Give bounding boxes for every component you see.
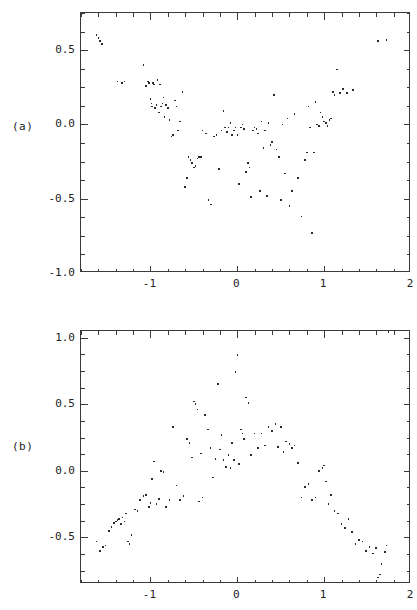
axis-tick [81, 504, 85, 505]
axis-tick [220, 580, 221, 582]
data-point [358, 539, 360, 541]
data-point [351, 531, 353, 533]
axis-tick [404, 404, 409, 405]
axis-tick [407, 571, 409, 572]
axis-tick [116, 580, 117, 582]
scatter-area-b [81, 331, 409, 582]
data-point [230, 467, 232, 469]
data-point [99, 550, 101, 552]
axis-tick [407, 438, 409, 439]
axis-tick [98, 580, 99, 582]
x-tick-label-b: 2 [407, 588, 414, 601]
axis-tick [376, 580, 377, 582]
data-point [176, 485, 178, 487]
data-point [163, 471, 165, 473]
data-point [344, 527, 346, 529]
data-point [134, 509, 136, 511]
data-point [204, 414, 206, 416]
data-point [264, 445, 266, 447]
data-point [330, 494, 332, 496]
data-point [261, 433, 263, 435]
axis-tick [133, 580, 134, 582]
data-point [195, 403, 197, 405]
axis-tick [324, 577, 325, 582]
data-point [215, 458, 217, 460]
x-tick-label-b: 1 [320, 588, 327, 601]
axis-tick [220, 331, 221, 335]
data-point [388, 331, 390, 333]
axis-tick [81, 404, 88, 405]
data-point [108, 530, 110, 532]
axis-tick [342, 331, 343, 335]
data-point [158, 498, 160, 500]
data-point [318, 470, 320, 472]
axis-tick [237, 331, 238, 338]
data-point [334, 510, 336, 512]
data-point [381, 563, 383, 565]
data-point [337, 513, 339, 515]
data-point [139, 499, 141, 501]
data-point [127, 541, 129, 543]
data-point [165, 506, 167, 508]
axis-tick [81, 554, 85, 555]
axis-tick [81, 331, 82, 335]
data-point [245, 397, 247, 399]
data-point [129, 543, 131, 545]
axis-tick [81, 537, 88, 538]
y-tick-label-b: 0.0 [42, 463, 75, 476]
axis-tick [81, 371, 85, 372]
axis-tick [307, 580, 308, 582]
axis-tick [407, 354, 409, 355]
axis-tick [81, 338, 88, 339]
data-point [131, 534, 133, 536]
data-point [189, 442, 191, 444]
axis-tick [81, 388, 85, 389]
axis-tick [407, 487, 409, 488]
axis-tick [116, 331, 117, 335]
axis-tick [272, 580, 273, 582]
data-point [280, 426, 282, 428]
axis-tick [404, 471, 409, 472]
data-point [304, 486, 306, 488]
data-point [322, 467, 324, 469]
panel-b: (b) -10121.00.50.0-0.5 [0, 0, 417, 305]
axis-tick [185, 331, 186, 335]
data-point [197, 409, 199, 411]
data-point [250, 454, 252, 456]
data-point [172, 426, 174, 428]
axis-tick [407, 554, 409, 555]
data-point [217, 383, 219, 385]
data-point [202, 497, 204, 499]
data-point [386, 545, 388, 547]
data-point [125, 513, 127, 515]
data-point [268, 426, 270, 428]
data-point [145, 494, 147, 496]
data-point [285, 441, 287, 443]
axis-tick [81, 354, 85, 355]
axis-tick [324, 331, 325, 338]
data-point [207, 429, 209, 431]
data-point [111, 526, 113, 528]
data-point [242, 433, 244, 435]
data-point [179, 499, 181, 501]
data-point [348, 518, 350, 520]
data-point [200, 453, 202, 455]
data-point [219, 449, 221, 451]
data-point [118, 518, 120, 520]
data-point [315, 497, 317, 499]
axis-tick [168, 580, 169, 582]
data-point [122, 517, 124, 519]
axis-tick [407, 454, 409, 455]
axis-tick [237, 577, 238, 582]
data-point [102, 546, 104, 548]
data-point [228, 454, 230, 456]
axis-tick [407, 371, 409, 372]
data-point [137, 510, 139, 512]
data-point [120, 523, 122, 525]
axis-tick [98, 331, 99, 335]
data-point [143, 495, 145, 497]
data-point [375, 547, 377, 549]
data-point [153, 461, 155, 463]
data-point [151, 478, 153, 480]
data-point [362, 541, 364, 543]
